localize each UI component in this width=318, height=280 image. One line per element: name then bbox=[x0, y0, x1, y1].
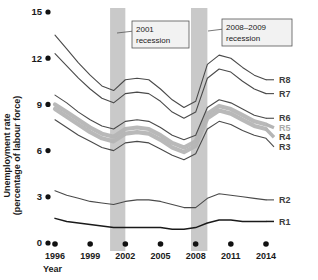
ytick-dot-12 bbox=[45, 56, 50, 61]
unemployment-line-chart: 036912151996199920022005200820112014Year… bbox=[0, 0, 318, 280]
xtick-dot-2002 bbox=[123, 241, 129, 247]
series-label-R7: R7 bbox=[279, 89, 291, 99]
xtick-label-2005: 2005 bbox=[150, 251, 170, 261]
annotation-recession-2008-2009: 2008–2009recession bbox=[208, 19, 292, 46]
xtick-dot-1999 bbox=[87, 241, 93, 247]
ytick-label-3: 3 bbox=[37, 191, 42, 202]
y-axis-title-line1: Unemployment rate bbox=[2, 113, 12, 197]
xtick-label-1996: 1996 bbox=[45, 251, 65, 261]
series-label-R3: R3 bbox=[279, 142, 291, 152]
annotation-line1: 2008–2009 bbox=[226, 23, 267, 32]
ytick-dot-6 bbox=[45, 148, 50, 153]
series-leader-R5 bbox=[266, 124, 274, 127]
ytick-label-9: 9 bbox=[37, 99, 42, 110]
annotation-line2: recession bbox=[136, 36, 170, 45]
xtick-label-2008: 2008 bbox=[186, 251, 206, 261]
annotation-line1: 2001 bbox=[136, 25, 154, 34]
series-label-R1: R1 bbox=[279, 217, 291, 227]
y-axis-title-line2: (percentage of labour force) bbox=[12, 96, 22, 216]
xtick-dot-1996 bbox=[52, 241, 58, 247]
ytick-dot-3 bbox=[45, 194, 50, 199]
series-line-R2 bbox=[55, 191, 266, 208]
ytick-label-0: 0 bbox=[37, 237, 42, 248]
series-label-R4: R4 bbox=[279, 132, 291, 142]
xtick-label-2014: 2014 bbox=[256, 251, 276, 261]
ytick-dot-0 bbox=[45, 240, 50, 245]
annotation-line2: recession bbox=[226, 34, 260, 43]
x-axis-title: Year bbox=[43, 264, 63, 274]
xtick-label-2011: 2011 bbox=[221, 251, 241, 261]
xtick-dot-2011 bbox=[228, 241, 234, 247]
xtick-dot-2008 bbox=[193, 241, 199, 247]
chart-canvas: 036912151996199920022005200820112014Year… bbox=[0, 0, 318, 280]
annotation-leader-line bbox=[208, 29, 222, 31]
series-leader-R3 bbox=[266, 138, 274, 146]
series-leader-R4 bbox=[266, 129, 274, 137]
xtick-dot-2005 bbox=[158, 241, 164, 247]
xtick-label-2002: 2002 bbox=[115, 251, 135, 261]
series-label-R8: R8 bbox=[279, 75, 291, 85]
ytick-label-12: 12 bbox=[31, 53, 42, 64]
series-line-R4 bbox=[55, 109, 266, 152]
ytick-dot-9 bbox=[45, 102, 50, 107]
series-line-R1 bbox=[55, 218, 266, 229]
series-label-R6: R6 bbox=[279, 113, 291, 123]
xtick-label-1999: 1999 bbox=[80, 251, 100, 261]
xtick-dot-2014 bbox=[263, 241, 269, 247]
annotation-recession-2001: 2001recession bbox=[117, 21, 189, 48]
series-label-R5: R5 bbox=[279, 123, 291, 133]
ytick-dot-15 bbox=[45, 9, 50, 14]
series-label-R2: R2 bbox=[279, 195, 291, 205]
ytick-label-15: 15 bbox=[31, 6, 42, 17]
ytick-label-6: 6 bbox=[37, 145, 42, 156]
